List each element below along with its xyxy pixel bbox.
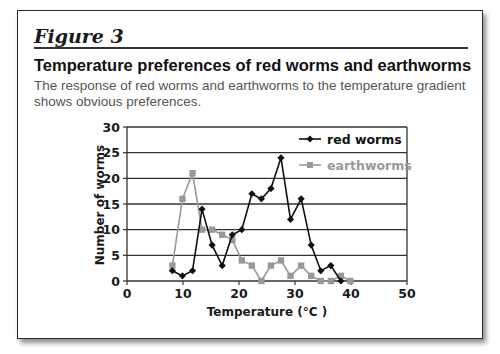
square-marker — [287, 273, 293, 279]
square-marker — [328, 278, 334, 284]
diamond-marker — [179, 272, 186, 279]
square-marker — [268, 262, 274, 268]
square-marker — [209, 226, 215, 232]
square-marker — [249, 262, 255, 268]
diamond-marker — [209, 241, 216, 248]
x-tick-label: 10 — [174, 286, 192, 301]
legend-label: earthworms — [327, 158, 412, 173]
series-earthworms — [169, 170, 353, 284]
y-tick-label: 0 — [111, 274, 120, 289]
x-tick-label: 40 — [342, 286, 360, 301]
diamond-marker — [277, 154, 284, 161]
x-tick-label: 20 — [230, 286, 248, 301]
legend-label: red worms — [327, 132, 402, 147]
x-axis-ticks: 01020304050 — [123, 286, 416, 301]
data-series — [169, 154, 354, 284]
square-marker — [219, 232, 225, 238]
square-marker — [179, 196, 185, 202]
line-chart: 051015202530 01020304050 Number of worms… — [0, 0, 500, 354]
diamond-marker — [248, 190, 255, 197]
y-tick-label: 30 — [103, 120, 121, 135]
square-marker — [347, 278, 353, 284]
diamond-marker — [238, 226, 245, 233]
square-marker — [189, 170, 195, 176]
diamond-marker — [189, 267, 196, 274]
legend: red wormsearthworms — [292, 128, 412, 173]
y-tick-label: 5 — [111, 248, 120, 263]
x-tick-label: 50 — [398, 286, 416, 301]
legend-square-icon — [307, 162, 313, 168]
diamond-marker — [298, 195, 305, 202]
square-marker — [318, 278, 324, 284]
x-axis-title: Temperature (°C ) — [207, 305, 327, 319]
square-marker — [278, 257, 284, 263]
x-tick-label: 0 — [123, 286, 132, 301]
square-marker — [239, 257, 245, 263]
square-marker — [308, 273, 314, 279]
diamond-marker — [287, 216, 294, 223]
y-axis-title: Number of worms — [93, 145, 107, 265]
x-tick-label: 30 — [286, 286, 304, 301]
square-marker — [298, 262, 304, 268]
diamond-marker — [219, 262, 226, 269]
diamond-marker — [317, 267, 324, 274]
square-marker — [258, 278, 264, 284]
diamond-marker — [308, 241, 315, 248]
